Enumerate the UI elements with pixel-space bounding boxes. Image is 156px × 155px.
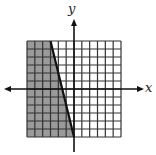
x-axis-label: x <box>145 80 152 95</box>
axes <box>4 19 144 152</box>
inequality-graph <box>0 0 156 155</box>
y-axis-label: y <box>68 1 75 16</box>
